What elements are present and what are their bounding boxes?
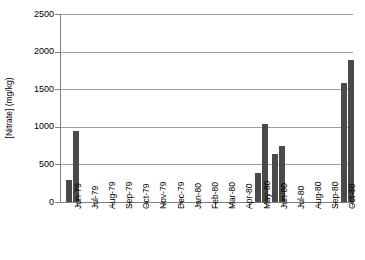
x-axis-tick-label: Jul-80 (296, 186, 306, 209)
y-axis-tick-label: 2500 (20, 10, 54, 19)
y-axis-tick-label: 0 (20, 198, 54, 207)
gridline (61, 52, 353, 53)
x-axis-tick-label: Nov-79 (158, 182, 168, 209)
y-axis-tick (55, 202, 60, 203)
bar (66, 180, 72, 202)
y-axis-tick-labels: 05001000150020002500 (18, 0, 54, 260)
y-axis-tick (55, 164, 60, 165)
x-axis-line (60, 202, 353, 203)
x-axis-tick-label: Aug-79 (107, 182, 117, 209)
y-axis-tick-label: 500 (20, 160, 54, 169)
y-axis-tick (55, 127, 60, 128)
x-axis-tick-label: Sep-80 (330, 182, 340, 209)
x-axis-tick-label: May-80 (262, 181, 272, 209)
x-axis-tick-label: Jun-79 (73, 183, 83, 209)
y-axis-tick-label: 1500 (20, 85, 54, 94)
x-axis-tick-label: Jun-80 (279, 183, 289, 209)
y-axis-tick (55, 89, 60, 90)
x-axis-tick-label: Jul-79 (90, 186, 100, 209)
x-axis-tick-label: Dec-79 (176, 182, 186, 209)
x-axis-tick-label: Mar-80 (227, 182, 237, 209)
x-axis-tick-label: Sep-79 (124, 182, 134, 209)
y-axis-tick-label: 1000 (20, 122, 54, 131)
x-axis-tick-label: Aug-80 (313, 182, 323, 209)
y-axis-tick (55, 52, 60, 53)
bar (341, 83, 347, 202)
plot-area (60, 14, 353, 202)
x-axis-tick-label: Jan-80 (193, 183, 203, 209)
x-axis-tick-label: Apr-80 (244, 183, 254, 209)
gridline (61, 164, 353, 165)
x-axis-tick-label: Feb-80 (210, 182, 220, 209)
gridline (61, 14, 353, 15)
bar (272, 154, 278, 202)
gridline (61, 89, 353, 90)
y-axis-title: [Nitrate] (mg/kg) (2, 14, 16, 202)
bar (348, 60, 354, 202)
gridline (61, 127, 353, 128)
bar (255, 173, 261, 202)
x-axis-tick-label: Oct-79 (141, 183, 151, 209)
y-axis-tick-label: 2000 (20, 47, 54, 56)
nitrate-bar-chart: [Nitrate] (mg/kg) 05001000150020002500 J… (0, 0, 365, 260)
x-axis-tick-label: Oct-80 (347, 183, 357, 209)
y-axis-tick (55, 14, 60, 15)
